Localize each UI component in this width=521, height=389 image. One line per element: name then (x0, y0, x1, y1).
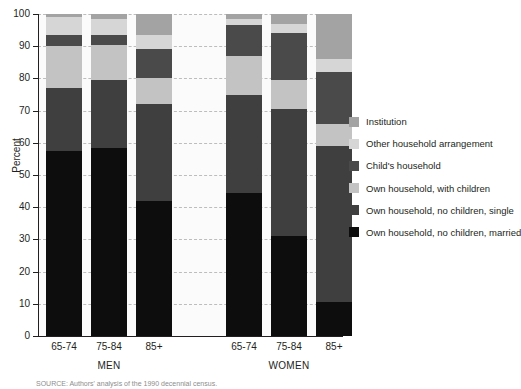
bar-segment[interactable] (46, 88, 82, 151)
legend-item[interactable]: Child's household (349, 160, 517, 171)
chart-container: 0102030405060708090100 Percent 65-7475-8… (0, 0, 521, 389)
bar-segment[interactable] (136, 35, 172, 49)
bar-segment[interactable] (226, 95, 262, 193)
y-axis-tick-label: 10 (0, 299, 30, 309)
legend-item-label: Own household, no children, married (366, 227, 521, 238)
bar-stack[interactable] (46, 14, 82, 336)
legend-color-swatch (349, 139, 359, 149)
legend-item-label: Own household, no children, single (366, 205, 514, 216)
legend-item-label: Other household arrangement (366, 138, 493, 149)
legend-item-label: Institution (366, 116, 407, 127)
bar-segment[interactable] (271, 236, 307, 336)
legend-item-label: Own household, with children (366, 183, 490, 194)
legend-item[interactable]: Own household, no children, married (349, 227, 517, 238)
bar-segment[interactable] (271, 109, 307, 236)
bar-segment[interactable] (136, 78, 172, 104)
bar-segment[interactable] (46, 151, 82, 336)
bar-segment[interactable] (316, 72, 352, 124)
bar-segment[interactable] (271, 33, 307, 80)
bar-segment[interactable] (316, 59, 352, 72)
bar-segment[interactable] (226, 193, 262, 336)
bar-stack[interactable] (136, 14, 172, 336)
x-axis-group-label: WOMEN (229, 360, 349, 371)
bar-stack[interactable] (271, 14, 307, 336)
legend-item[interactable]: Own household, no children, single (349, 205, 517, 216)
bar-segment[interactable] (316, 124, 352, 147)
bar-segment[interactable] (91, 35, 127, 45)
legend-color-swatch (349, 205, 359, 215)
bar-segment[interactable] (271, 80, 307, 109)
bar-segment[interactable] (91, 148, 127, 336)
legend-color-swatch (349, 117, 359, 127)
bar-segment[interactable] (316, 302, 352, 336)
bar-segment[interactable] (91, 80, 127, 148)
bar-stack[interactable] (316, 14, 352, 336)
bar-segment[interactable] (91, 45, 127, 80)
x-axis-category-label: 85+ (304, 341, 364, 352)
legend-item[interactable]: Other household arrangement (349, 138, 517, 149)
y-axis-tick-label: 80 (0, 73, 30, 83)
legend-item[interactable]: Institution (349, 116, 517, 127)
x-axis-category-label: 85+ (124, 341, 184, 352)
bar-stack[interactable] (91, 14, 127, 336)
bar-segment[interactable] (136, 49, 172, 78)
chart-legend: InstitutionOther household arrangementCh… (349, 116, 517, 249)
legend-item[interactable]: Own household, with children (349, 183, 517, 194)
y-axis-tick-label: 70 (0, 106, 30, 116)
x-axis-line (38, 336, 343, 337)
y-axis-tick-label: 20 (0, 267, 30, 277)
bar-segment[interactable] (136, 201, 172, 336)
y-axis-tick-label: 0 (0, 331, 30, 341)
bar-segment[interactable] (91, 19, 127, 35)
x-axis-group-label: MEN (49, 360, 169, 371)
y-axis-tick-label: 40 (0, 202, 30, 212)
legend-color-swatch (349, 183, 359, 193)
bar-segment[interactable] (316, 14, 352, 59)
source-note: SOURCE: Authors' analysis of the 1990 de… (36, 379, 506, 388)
bar-segment[interactable] (271, 24, 307, 34)
bar-stack[interactable] (226, 14, 262, 336)
legend-color-swatch (349, 161, 359, 171)
bar-segment[interactable] (226, 25, 262, 56)
bar-segment[interactable] (136, 104, 172, 201)
bar-segment[interactable] (136, 14, 172, 35)
bar-segment[interactable] (46, 35, 82, 46)
bar-segment[interactable] (46, 46, 82, 88)
legend-item-label: Child's household (366, 160, 441, 171)
bar-segment[interactable] (316, 146, 352, 302)
y-axis-tick-label: 30 (0, 234, 30, 244)
y-axis-title: Percent (11, 116, 22, 196)
bar-segment[interactable] (226, 56, 262, 95)
bar-segment[interactable] (271, 14, 307, 24)
bar-segment[interactable] (46, 17, 82, 35)
legend-color-swatch (349, 227, 359, 237)
y-axis-tick-label: 90 (0, 41, 30, 51)
y-axis-tick-label: 100 (0, 9, 30, 19)
y-axis-line (38, 14, 39, 336)
